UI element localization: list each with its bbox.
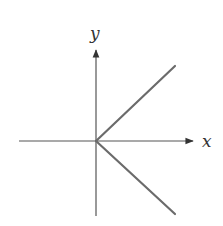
y-axis-label: y	[89, 23, 100, 43]
upper-ray	[96, 66, 175, 141]
coordinate-graph: y x	[0, 0, 223, 226]
lower-ray	[96, 141, 175, 214]
x-axis-label: x	[202, 131, 212, 151]
